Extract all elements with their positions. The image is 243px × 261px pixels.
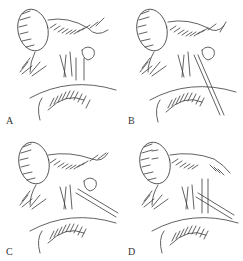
- illustration-panel-b: [122, 0, 243, 130]
- panel-b: B: [122, 0, 243, 130]
- gallbladder-shape: [15, 139, 53, 186]
- panel-c: C: [0, 131, 121, 261]
- panel-a: A: [0, 0, 121, 130]
- panel-label-c: C: [6, 247, 13, 257]
- panel-label-b: B: [128, 116, 135, 126]
- illustration-panel-a: [0, 0, 121, 130]
- illustration-panel-d: [122, 131, 243, 261]
- gallbladder-shape: [136, 139, 174, 186]
- panel-label-a: A: [6, 116, 13, 126]
- four-panel-figure: A B: [0, 0, 243, 261]
- gallbladder-shape: [133, 6, 171, 53]
- panel-d: D: [122, 131, 243, 261]
- gallbladder-shape: [14, 6, 52, 53]
- illustration-panel-c: [0, 131, 121, 261]
- panel-label-d: D: [128, 247, 135, 257]
